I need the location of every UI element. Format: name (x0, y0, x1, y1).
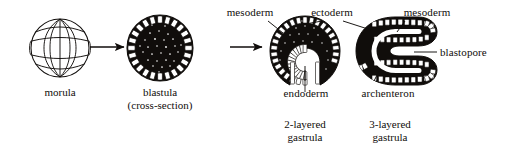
caption-three-layered-line2: gastrula (369, 131, 411, 144)
label-mesoderm-left: mesoderm (227, 6, 274, 19)
label-mesoderm-right: mesoderm (404, 6, 451, 19)
caption-two-layered-gastrula: 2-layered gastrula (284, 118, 326, 144)
caption-morula-line1: morula (44, 86, 75, 98)
caption-blastula-line1: blastula (143, 86, 177, 98)
caption-blastula: blastula (cross-section) (128, 86, 193, 112)
embryology-diagram: mesoderm ectoderm mesoderm blastopore en… (0, 0, 508, 160)
diagram-artwork (0, 0, 508, 160)
caption-morula: morula (44, 86, 75, 99)
label-archenteron: archenteron (361, 87, 414, 100)
label-endoderm: endoderm (284, 87, 329, 100)
three-layered-gastrula-illustration (344, 17, 437, 85)
caption-blastula-line2: (cross-section) (128, 99, 193, 112)
caption-two-layered-line1: 2-layered (284, 118, 326, 130)
leader-ectoderm-right (343, 21, 371, 30)
caption-three-layered-line1: 3-layered (369, 118, 411, 130)
blastula-illustration (127, 15, 193, 81)
caption-two-layered-line2: gastrula (284, 131, 326, 144)
morula-illustration (29, 19, 90, 77)
label-ectoderm: ectoderm (311, 6, 353, 19)
label-blastopore: blastopore (440, 46, 487, 59)
caption-three-layered-gastrula: 3-layered gastrula (369, 118, 411, 144)
